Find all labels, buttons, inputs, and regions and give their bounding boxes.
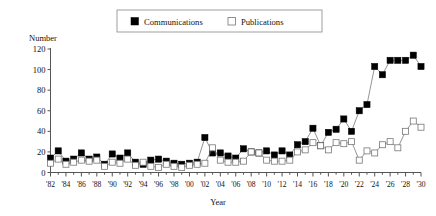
y-tick-label: 100: [33, 65, 46, 75]
data-point-marker: [318, 143, 324, 149]
data-point-marker: [395, 57, 401, 63]
x-tick-label: '92: [123, 180, 132, 189]
data-point-marker: [55, 156, 61, 162]
x-tick-label: '20: [339, 180, 348, 189]
y-tick-label: 0: [41, 168, 45, 178]
legend-label-publications: Publications: [241, 17, 284, 27]
data-point-marker: [279, 158, 285, 164]
x-axis: '82'84'86'88'90'92'94'96'98'00'02'04'06'…: [46, 173, 426, 189]
data-point-marker: [194, 161, 200, 167]
data-point-marker: [356, 157, 362, 163]
data-point-marker: [264, 157, 270, 163]
data-point-marker: [171, 163, 177, 169]
chart-legend: Communications Publications: [117, 10, 322, 32]
data-point-marker: [264, 148, 270, 154]
y-tick-label: 40: [37, 126, 46, 136]
data-point-marker: [379, 142, 385, 148]
data-point-marker: [418, 124, 424, 130]
data-point-marker: [117, 160, 123, 166]
data-point-marker: [163, 161, 169, 167]
y-tick-label: 80: [37, 85, 46, 95]
data-point-marker: [325, 129, 331, 135]
legend-marker-publications: [228, 18, 236, 26]
data-point-marker: [240, 158, 246, 164]
data-point-marker: [294, 142, 300, 148]
y-tick-label: 20: [37, 147, 46, 157]
x-tick-label: '16: [308, 180, 317, 189]
data-point-marker: [271, 158, 277, 164]
data-point-marker: [148, 163, 154, 169]
data-point-marker: [364, 101, 370, 107]
data-point-marker: [395, 145, 401, 151]
data-point-marker: [102, 163, 108, 169]
data-point-marker: [71, 159, 77, 165]
data-point-marker: [63, 161, 69, 167]
data-point-marker: [410, 118, 416, 124]
data-point-marker: [156, 164, 162, 170]
data-point-marker: [372, 150, 378, 156]
data-point-marker: [418, 63, 424, 69]
x-tick-label: '22: [355, 180, 364, 189]
x-tick-label: '90: [108, 180, 117, 189]
data-point-marker: [302, 139, 308, 145]
data-point-marker: [402, 57, 408, 63]
data-point-marker: [256, 150, 262, 156]
data-point-marker: [55, 148, 61, 154]
chart-series-group: [47, 52, 424, 170]
x-tick-label: '08: [247, 180, 256, 189]
data-point-marker: [78, 150, 84, 156]
data-point-marker: [225, 159, 231, 165]
x-axis-title: Year: [210, 197, 226, 207]
data-point-marker: [109, 151, 115, 157]
data-point-marker: [140, 159, 146, 165]
x-tick-label: '82: [46, 180, 55, 189]
x-tick-label: '98: [170, 180, 179, 189]
data-point-marker: [356, 108, 362, 114]
data-point-marker: [132, 162, 138, 168]
data-point-marker: [348, 128, 354, 134]
data-point-marker: [48, 160, 54, 166]
x-tick-label: '96: [154, 180, 163, 189]
x-tick-label: '06: [231, 180, 240, 189]
data-point-marker: [349, 139, 355, 145]
data-point-marker: [217, 150, 223, 156]
data-point-marker: [403, 128, 409, 134]
x-tick-label: '94: [139, 180, 148, 189]
x-tick-label: '30: [417, 180, 426, 189]
legend-label-communications: Communications: [144, 17, 203, 27]
data-point-marker: [248, 149, 254, 155]
line-chart: Communications Publications Number 02040…: [0, 0, 436, 216]
data-point-marker: [379, 72, 385, 78]
y-tick-label: 120: [33, 44, 46, 54]
data-point-marker: [310, 125, 316, 131]
data-point-marker: [125, 150, 131, 156]
y-axis-title: Number: [29, 33, 57, 43]
data-point-marker: [364, 148, 370, 154]
data-point-marker: [341, 116, 347, 122]
data-point-marker: [109, 159, 115, 165]
data-point-marker: [202, 134, 208, 140]
x-tick-label: '24: [370, 180, 379, 189]
data-point-marker: [372, 63, 378, 69]
data-point-marker: [333, 126, 339, 132]
data-point-marker: [387, 57, 393, 63]
x-tick-label: '86: [77, 180, 86, 189]
data-point-marker: [202, 160, 208, 166]
data-point-marker: [94, 157, 100, 163]
x-tick-label: '02: [200, 180, 209, 189]
data-point-marker: [333, 140, 339, 146]
data-point-marker: [325, 147, 331, 153]
y-tick-label: 60: [37, 106, 46, 116]
data-point-marker: [225, 153, 231, 159]
data-point-marker: [78, 157, 84, 163]
data-point-marker: [410, 52, 416, 58]
data-point-marker: [233, 159, 239, 165]
data-point-marker: [295, 149, 301, 155]
data-point-marker: [302, 147, 308, 153]
x-tick-label: '84: [61, 180, 70, 189]
legend-marker-communications: [131, 18, 139, 26]
data-point-marker: [179, 164, 185, 170]
data-point-marker: [387, 139, 393, 145]
x-tick-label: '28: [401, 180, 410, 189]
data-point-marker: [240, 146, 246, 152]
